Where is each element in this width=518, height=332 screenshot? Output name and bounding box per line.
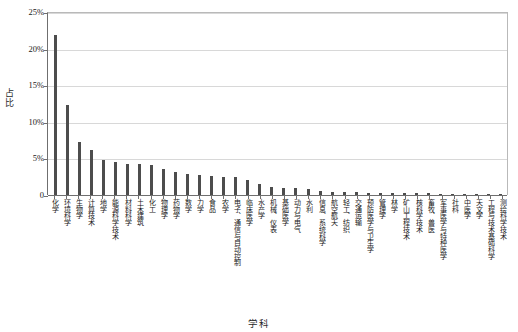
y-axis-tick-label: 20%: [10, 45, 44, 54]
x-axis-label-slot: 土木建筑: [133, 199, 145, 309]
bar-slot: [49, 13, 61, 195]
x-axis-label-slot: 轻工、纺织: [339, 199, 351, 309]
bar-slot: [483, 13, 495, 195]
x-axis-label-slot: 工程与技术基础科学: [485, 199, 497, 309]
x-axis-category-label: 地学: [99, 199, 107, 212]
x-axis-label-slot: 电子、通信与自动控制: [230, 199, 242, 309]
x-axis-category-label: 计算技术: [87, 199, 95, 226]
x-axis-category-label: 中医学: [463, 199, 471, 219]
x-axis-category-label: 力学: [196, 199, 204, 212]
bar-slot: [422, 13, 434, 195]
bar-slot: [218, 13, 230, 195]
x-axis-label-slot: 生物学: [72, 199, 84, 309]
bar-slot: [459, 13, 471, 195]
x-axis-category-label: 临床医学: [244, 199, 252, 226]
y-axis-tick-label: 0: [10, 191, 44, 200]
bar-slot: [85, 13, 97, 195]
x-axis-category-label: 食品: [208, 199, 216, 212]
bar-slot: [206, 13, 218, 195]
bar-slot: [242, 13, 254, 195]
bar: [198, 175, 201, 195]
y-axis-tick-label: 15%: [10, 81, 44, 90]
x-axis-label-slot: 临床医学: [242, 199, 254, 309]
bar-slot: [109, 13, 121, 195]
x-axis-label-slot: 天文学: [472, 199, 484, 309]
bar: [222, 177, 225, 195]
y-axis-tick-label: 5%: [10, 154, 44, 163]
bar: [210, 176, 213, 195]
bar-slot: [97, 13, 109, 195]
bar: [234, 177, 237, 195]
bar-slot: [157, 13, 169, 195]
x-axis-category-label: 社科: [450, 199, 458, 212]
x-axis-label-slot: 畜牧、兽医: [424, 199, 436, 309]
bar: [174, 172, 177, 195]
x-axis-category-label: 化工: [147, 199, 155, 212]
bar-slot: [266, 13, 278, 195]
x-axis-category-label: 矿山工程技术: [402, 199, 410, 239]
x-axis-category-label: 机械、仪表: [269, 199, 277, 233]
bar-slot: [410, 13, 422, 195]
bar: [186, 174, 189, 195]
x-axis-label-slot: 预防医学与卫生学: [363, 199, 375, 309]
y-axis-tick: [44, 159, 48, 160]
y-axis-tick-label: 25%: [10, 8, 44, 17]
x-axis-category-label: 交通运输: [353, 199, 361, 226]
x-axis-label-slot: 计算技术: [84, 199, 96, 309]
x-axis-category-label: 预防医学与卫生学: [366, 199, 374, 253]
x-axis-category-label: 轻工、纺织: [341, 199, 349, 233]
bar-slot: [398, 13, 410, 195]
x-axis-category-label: 生物学: [75, 199, 83, 219]
bar-slot: [326, 13, 338, 195]
bar-slot: [73, 13, 85, 195]
x-axis-category-label: 土木建筑: [135, 199, 143, 226]
bar-slot: [145, 13, 157, 195]
bar: [90, 150, 93, 195]
y-axis-tick: [44, 86, 48, 87]
x-axis-label-slot: 信息、系统科学: [315, 199, 327, 309]
bar: [270, 187, 273, 195]
bar-slot: [314, 13, 326, 195]
x-axis-label-slot: 水产学: [254, 199, 266, 309]
bar-slot: [182, 13, 194, 195]
x-axis-label-slot: 核科学技术: [412, 199, 424, 309]
x-axis-category-label: 测绘科学技术: [499, 199, 507, 239]
x-axis-label-slot: 机械、仪表: [266, 199, 278, 309]
bar-slot: [435, 13, 447, 195]
y-axis-tick: [44, 13, 48, 14]
bar-slot: [374, 13, 386, 195]
x-axis-label-slot: 力学: [194, 199, 206, 309]
x-axis-label-slot: 材料科学: [121, 199, 133, 309]
x-axis-label-slot: 物理学: [157, 199, 169, 309]
bar-series: [48, 13, 507, 195]
x-axis-label-slot: 能源科学技术: [109, 199, 121, 309]
x-axis-label-slot: 矿山工程技术: [400, 199, 412, 309]
x-axis-category-label: 数学: [184, 199, 192, 212]
bar: [138, 164, 141, 195]
x-axis-category-label: 电子、通信与自动控制: [232, 199, 240, 266]
y-axis-tick: [44, 123, 48, 124]
x-axis-category-label: 物理学: [159, 199, 167, 219]
x-axis-category-label: 畜牧、兽医: [426, 199, 434, 233]
bar-slot: [230, 13, 242, 195]
bar: [162, 169, 165, 195]
x-axis-category-label: 环境科学: [62, 199, 70, 226]
bar-slot: [302, 13, 314, 195]
x-axis-label-slot: 化工: [145, 199, 157, 309]
bar-slot: [471, 13, 483, 195]
x-axis-label-slot: 环境科学: [60, 199, 72, 309]
bar: [282, 188, 285, 195]
x-axis-category-label: 水利: [305, 199, 313, 212]
x-axis-category-label: 核科学技术: [414, 199, 422, 233]
bar: [54, 35, 57, 195]
x-axis-category-label: 能源科学技术: [111, 199, 119, 239]
x-axis-category-label: 工程与技术基础科学: [487, 199, 495, 259]
x-axis-label-slot: 航空航天: [327, 199, 339, 309]
x-axis-label-slot: 交通运输: [351, 199, 363, 309]
x-axis-label-slot: 社科: [448, 199, 460, 309]
x-axis-category-label: 材料科学: [123, 199, 131, 226]
x-axis-label-slot: 军事医学与特种医学: [436, 199, 448, 309]
bar-slot: [133, 13, 145, 195]
bar: [114, 162, 117, 195]
x-axis-label-slot: 水利: [303, 199, 315, 309]
